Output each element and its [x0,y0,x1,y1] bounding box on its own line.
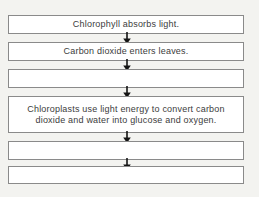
photosynthesis-flowchart: Chlorophyll absorbs light. Carbon dioxid… [0,0,259,197]
flow-step-2-text: Carbon dioxide enters leaves. [64,46,189,57]
flow-step-6-empty [8,166,244,184]
flow-step-4-text-line-2: dioxide and water into glucose and oxyge… [35,115,216,126]
flow-step-4: Chloroplasts use light energy to convert… [8,96,244,133]
flow-step-1-text: Chlorophyll absorbs light. [73,19,179,30]
flow-step-4-text-line-1: Chloroplasts use light energy to convert… [27,104,225,115]
